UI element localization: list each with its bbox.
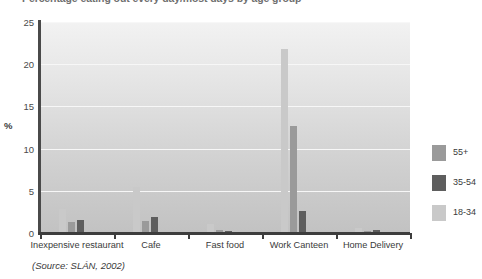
y-axis-ticks: 0510152025 (0, 0, 34, 279)
legend-label: 35-54 (453, 177, 476, 187)
bar (59, 209, 66, 233)
y-axis-tick-label: 20 (4, 59, 34, 70)
legend-item: 35-54 (432, 173, 482, 203)
chart-title: Percentage eating out every day/most day… (0, 0, 482, 6)
gridline (40, 149, 410, 150)
x-axis-category-label: Fast food (206, 240, 244, 250)
bar (151, 217, 158, 233)
plot-area (40, 22, 410, 233)
chart-legend: 55+35-5418-34 (432, 143, 482, 233)
source-note: (Source: SLÁN, 2002) (32, 260, 125, 271)
gridline (40, 22, 410, 23)
y-axis-tick-label: 10 (4, 143, 34, 154)
legend-swatch (432, 145, 446, 161)
gridline (40, 106, 410, 107)
legend-label: 55+ (453, 147, 468, 157)
y-axis-tick-label: 15 (4, 101, 34, 112)
y-axis-tick-label: 5 (4, 185, 34, 196)
x-axis-tick (336, 233, 338, 239)
bar (281, 49, 288, 233)
legend-item: 18-34 (432, 203, 482, 233)
x-axis-category-label: Cafe (141, 240, 160, 250)
x-axis-tick (188, 233, 190, 239)
y-axis-tick-label: 0 (4, 228, 34, 239)
bar (133, 187, 140, 233)
gridline (40, 64, 410, 65)
x-axis-tick (262, 233, 264, 239)
legend-swatch (432, 175, 446, 191)
x-axis-line (38, 232, 410, 235)
legend-swatch (432, 205, 446, 221)
gridline (40, 191, 410, 192)
bar (77, 220, 84, 234)
x-axis-category-label: Home Delivery (343, 240, 403, 250)
bar (290, 126, 297, 233)
x-axis-tick (40, 233, 42, 239)
bar (299, 211, 306, 233)
legend-item: 55+ (432, 143, 482, 173)
y-axis-tick-label: 25 (4, 17, 34, 28)
legend-label: 18-34 (453, 207, 476, 217)
x-axis-category-label: Inexpensive restaurant (31, 240, 124, 250)
x-axis-tick (114, 233, 116, 239)
y-axis-line (38, 20, 41, 234)
x-axis-tick (410, 233, 412, 239)
y-axis-label: % (4, 120, 12, 131)
x-axis-category-label: Work Canteen (270, 240, 329, 250)
